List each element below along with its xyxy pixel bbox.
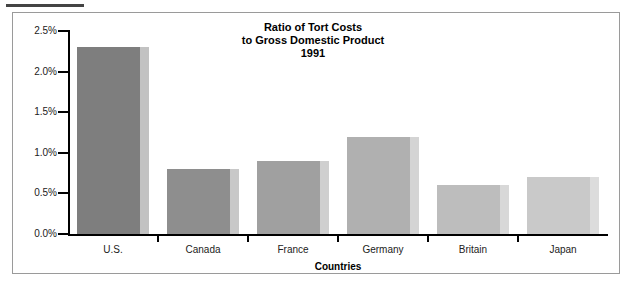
bar-face [77,47,140,234]
y-axis-tick [58,152,70,154]
bar-germany [347,137,419,234]
y-axis-tick-label: 0.5% [17,187,57,198]
bar-side-shadow [500,185,509,234]
bar-side-shadow [140,47,149,234]
x-axis-label-canada: Canada [158,244,248,255]
y-axis-tick [58,192,70,194]
bar-side-shadow [410,137,419,234]
bar-side-shadow [590,177,599,234]
y-axis-tick [58,71,70,73]
x-axis-tick [157,236,159,242]
y-axis-tick [58,30,70,32]
bar-japan [527,177,599,234]
bar-face [257,161,320,234]
x-axis-tick [337,236,339,242]
bar-face [167,169,230,234]
y-axis-tick-label: 1.0% [17,147,57,158]
chart-frame: Ratio of Tort Costs to Gross Domestic Pr… [12,12,620,274]
x-axis-label-japan: Japan [518,244,608,255]
chart-title: Ratio of Tort Costs to Gross Domestic Pr… [163,21,463,60]
bar-face [437,185,500,234]
x-axis-title: Countries [68,261,608,272]
plot-area: Ratio of Tort Costs to Gross Domestic Pr… [13,13,621,275]
chart-title-line-2: to Gross Domestic Product [163,34,463,47]
bar-side-shadow [320,161,329,234]
x-axis-label-germany: Germany [338,244,428,255]
y-axis-tick-label: 2.5% [17,25,57,36]
x-axis-label-britain: Britain [428,244,518,255]
y-axis-labels: 0.0%0.5%1.0%1.5%2.0%2.5% [13,31,57,236]
chart-title-line-3: 1991 [163,47,463,60]
x-axis-tick [427,236,429,242]
y-axis-tick [58,233,70,235]
x-axis-tick [517,236,519,242]
bar-face [347,137,410,234]
y-axis-tick-label: 2.0% [17,66,57,77]
chart-title-line-1: Ratio of Tort Costs [163,21,463,34]
y-axis-tick-label: 1.5% [17,106,57,117]
y-axis-line [68,31,70,236]
bar-side-shadow [230,169,239,234]
x-axis-label-u-s: U.S. [68,244,158,255]
bar-france [257,161,329,234]
x-axis-tick [247,236,249,242]
y-axis-tick-label: 0.0% [17,228,57,239]
top-rule-divider [6,4,84,7]
bar-britain [437,185,509,234]
bar-face [527,177,590,234]
chart-screenshot: Ratio of Tort Costs to Gross Domestic Pr… [0,0,633,289]
bar-u-s [77,47,149,234]
x-axis-label-france: France [248,244,338,255]
bar-canada [167,169,239,234]
y-axis-tick [58,111,70,113]
